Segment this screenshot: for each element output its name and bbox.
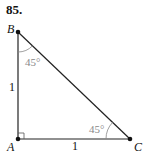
side-ab-length: 1 [9,80,15,94]
vertex-b-label: B [7,22,15,36]
side-ac-length: 1 [72,139,78,153]
vertex-c-dot [128,137,133,142]
right-triangle-diagram: B A C 1 1 45° 45° [0,0,151,154]
angle-c-label: 45° [89,123,104,135]
vertex-b-dot [16,30,21,35]
angle-arc-c [106,122,113,139]
side-bc [18,32,130,139]
vertex-c-label: C [134,140,143,154]
vertex-a-dot [16,137,21,142]
angle-arc-b [18,46,33,52]
vertex-a-label: A [6,140,15,154]
angle-b-label: 45° [25,56,40,68]
